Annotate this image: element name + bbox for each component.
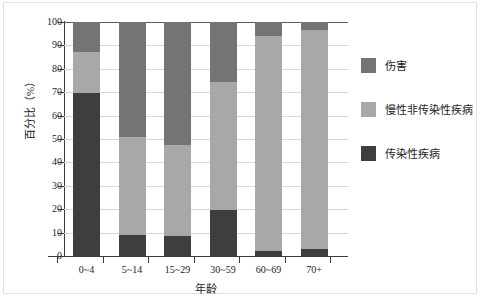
bar-segment — [210, 22, 237, 82]
legend-item-label: 传染性疾病 — [385, 145, 440, 161]
bar-segment — [73, 52, 100, 93]
bar-segment — [73, 93, 100, 256]
x-axis-tick — [194, 256, 195, 263]
y-axis-tick-label: 20 — [32, 204, 62, 214]
x-axis-tick-label: 60~69 — [243, 264, 295, 275]
x-axis-tick — [103, 256, 104, 263]
legend-item-label: 伤害 — [385, 57, 407, 73]
bar-segment — [255, 251, 282, 256]
bar-segment — [119, 22, 146, 137]
bar-segment — [255, 22, 282, 36]
bar-segment — [255, 36, 282, 251]
legend-item[interactable]: 传染性疾病 — [361, 145, 440, 161]
x-axis-tick-label: 0~4 — [61, 264, 113, 275]
gridline — [64, 256, 348, 257]
y-axis-tick-label: 30 — [32, 181, 62, 191]
y-axis-tick-label: 90 — [32, 40, 62, 50]
legend-swatch-injuries — [361, 58, 376, 73]
y-axis-tick-label: 60 — [32, 111, 62, 121]
y-axis-tick-label: 10 — [32, 228, 62, 238]
legend-swatch-communicable — [361, 146, 376, 161]
bar-segment — [301, 30, 328, 249]
x-axis-tick — [148, 256, 149, 263]
legend-item-label: 慢性非传染性疾病 — [385, 101, 473, 117]
stacked-bar — [119, 22, 146, 256]
x-axis-tick-label: 5~14 — [106, 264, 158, 275]
y-axis-tick-label: 70 — [32, 87, 62, 97]
bar-segment — [164, 145, 191, 236]
legend-swatch-chronic-ncd — [361, 102, 376, 117]
bar-segment — [164, 236, 191, 256]
stacked-bar — [301, 22, 328, 256]
x-axis-tick-label: 70+ — [288, 264, 340, 275]
chart-page: 百分比（%） 0102030405060708090100 0~45~1415~… — [0, 0, 485, 304]
x-axis-tick — [285, 256, 286, 263]
y-axis-tick-label: 100 — [32, 17, 62, 27]
stacked-bar — [73, 22, 100, 256]
legend-item[interactable]: 伤害 — [361, 57, 407, 73]
stacked-bar — [164, 22, 191, 256]
legend-item[interactable]: 慢性非传染性疾病 — [361, 101, 473, 117]
x-axis-tick — [330, 256, 331, 263]
bar-segment — [210, 210, 237, 256]
bar-segment — [119, 137, 146, 235]
y-axis-tick-label: 50 — [32, 134, 62, 144]
bar-segment — [210, 82, 237, 210]
x-axis-title: 年龄 — [160, 280, 252, 296]
y-axis-tick-label: 80 — [32, 64, 62, 74]
x-axis-tick-label: 15~29 — [152, 264, 204, 275]
bar-segment — [119, 235, 146, 256]
y-axis-tick-label: 40 — [32, 157, 62, 167]
plot-area — [64, 22, 348, 256]
x-axis-tick — [239, 256, 240, 263]
x-axis-tick-label: 30~59 — [197, 264, 249, 275]
bar-segment — [301, 249, 328, 256]
bar-segment — [164, 22, 191, 145]
bar-segment — [73, 22, 100, 52]
stacked-bar — [255, 22, 282, 256]
x-axis-tick — [57, 256, 58, 263]
bar-segment — [301, 22, 328, 30]
stacked-bar — [210, 22, 237, 256]
